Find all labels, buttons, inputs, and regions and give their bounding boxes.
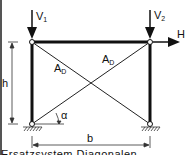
label-height: h — [2, 77, 8, 89]
label-angle: α — [61, 109, 68, 121]
hinge-top-right-icon — [148, 40, 153, 45]
left-border — [0, 0, 2, 155]
hinge-bottom-left-icon — [30, 122, 35, 127]
label-v2: V2 — [154, 9, 165, 22]
label-v1: V1 — [36, 10, 47, 23]
label-diagonal-1: AD — [54, 62, 66, 75]
label-diagonal-2: AD — [102, 53, 114, 66]
load-h-arrow-icon — [153, 37, 180, 47]
dimension-height — [8, 42, 18, 124]
diagram-canvas: V1 V2 H AD AD h b α Er — [0, 0, 192, 155]
caption: Ersatzsystem Diagonalen — [1, 149, 137, 155]
frame-members — [32, 42, 150, 124]
angle-marker — [34, 113, 64, 124]
label-width: b — [87, 132, 93, 144]
frame-diagram: V1 V2 H AD AD h b α — [0, 0, 192, 155]
label-h: H — [177, 28, 185, 40]
support-right-icon — [141, 127, 160, 131]
hinge-top-left-icon — [30, 40, 35, 45]
hinge-bottom-right-icon — [148, 122, 153, 127]
support-left-icon — [23, 127, 42, 131]
